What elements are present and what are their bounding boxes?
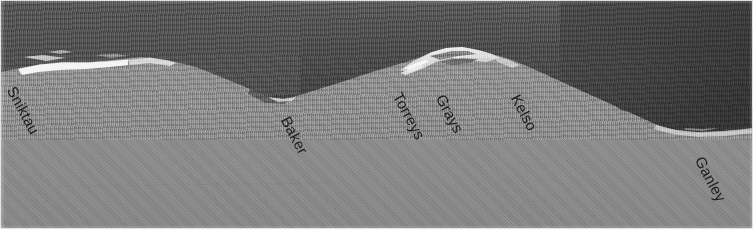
skyline-photo [0,0,753,229]
panorama-image: Sniktau Baker Torreys Grays Kelso Ganley [0,0,753,229]
